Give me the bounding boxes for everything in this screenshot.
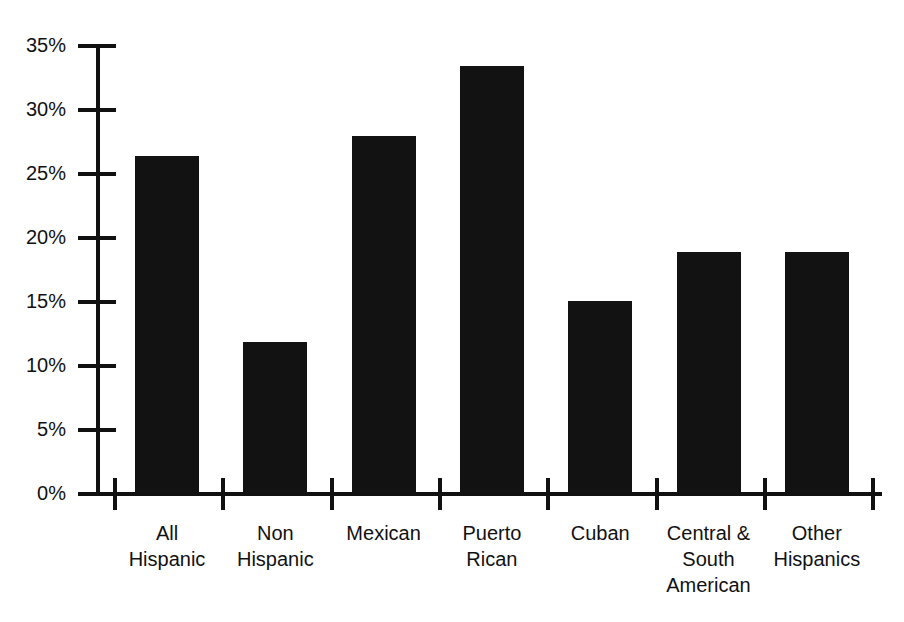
y-axis-tick-label: 10% xyxy=(0,355,66,375)
x-axis-label: OtherHispanics xyxy=(742,520,892,572)
y-axis-tick xyxy=(78,492,116,496)
y-axis-tick xyxy=(78,108,116,112)
x-axis-tick xyxy=(113,478,117,510)
y-axis-tick xyxy=(78,300,116,304)
x-axis-label-line: Hispanic xyxy=(200,546,350,572)
y-axis-tick xyxy=(78,428,116,432)
y-axis-tick xyxy=(78,236,116,240)
y-axis-tick-label: 25% xyxy=(0,163,66,183)
x-axis-tick xyxy=(438,478,442,510)
bar xyxy=(460,66,524,494)
y-axis-tick-label: 15% xyxy=(0,291,66,311)
x-axis-tick xyxy=(655,478,659,510)
y-axis-tick xyxy=(78,364,116,368)
y-axis-tick-label: 0% xyxy=(0,483,66,503)
x-axis-tick xyxy=(330,478,334,510)
x-axis-label-line: Hispanics xyxy=(742,546,892,572)
y-axis-tick-label: 5% xyxy=(0,419,66,439)
y-axis-tick-label: 30% xyxy=(0,99,66,119)
x-axis-tick xyxy=(221,478,225,510)
x-axis-label-line: Other xyxy=(742,520,892,546)
bar xyxy=(785,252,849,494)
x-axis-label-line: American xyxy=(634,572,784,598)
y-axis-tick xyxy=(78,172,116,176)
bar xyxy=(243,342,307,494)
x-axis-label-line: Rican xyxy=(417,546,567,572)
bar xyxy=(352,136,416,494)
bar-chart: 0%5%10%15%20%25%30%35% AllHispanicNonHis… xyxy=(0,0,904,622)
y-axis-tick-label: 35% xyxy=(0,35,66,55)
x-axis-tick xyxy=(763,478,767,510)
bar xyxy=(568,301,632,494)
y-axis-tick xyxy=(78,44,116,48)
bar xyxy=(135,156,199,494)
y-axis-tick-label: 20% xyxy=(0,227,66,247)
x-axis-tick xyxy=(546,478,550,510)
x-axis-tick xyxy=(871,478,875,510)
bar xyxy=(677,252,741,494)
plot-area: 0%5%10%15%20%25%30%35% AllHispanicNonHis… xyxy=(0,0,904,622)
